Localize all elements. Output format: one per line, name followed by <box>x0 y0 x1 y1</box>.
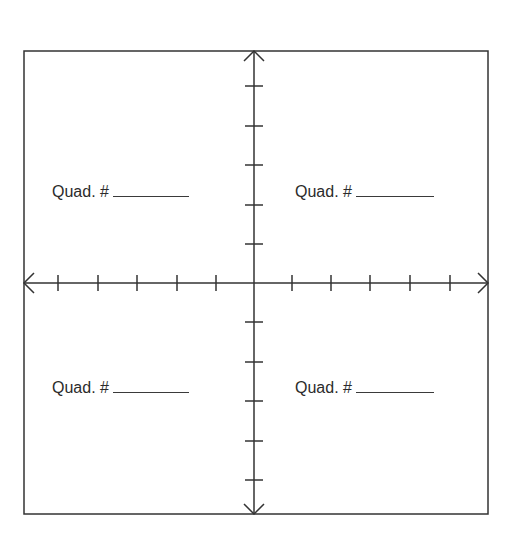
quadrant-label-top-left: Quad. # <box>52 184 189 200</box>
quadrant-label-bottom-right: Quad. # <box>295 380 434 396</box>
quadrant-prefix: Quad. # <box>52 379 109 396</box>
quadrant-prefix: Quad. # <box>295 379 352 396</box>
quadrant-label-top-right: Quad. # <box>295 184 434 200</box>
quadrant-label-bottom-left: Quad. # <box>52 380 189 396</box>
quadrant-prefix: Quad. # <box>295 183 352 200</box>
quadrant-answer-blank[interactable] <box>356 391 434 393</box>
quadrant-answer-blank[interactable] <box>113 195 189 197</box>
quadrant-answer-blank[interactable] <box>113 391 189 393</box>
quadrant-prefix: Quad. # <box>52 183 109 200</box>
coordinate-plane <box>0 0 512 534</box>
quadrant-answer-blank[interactable] <box>356 195 434 197</box>
